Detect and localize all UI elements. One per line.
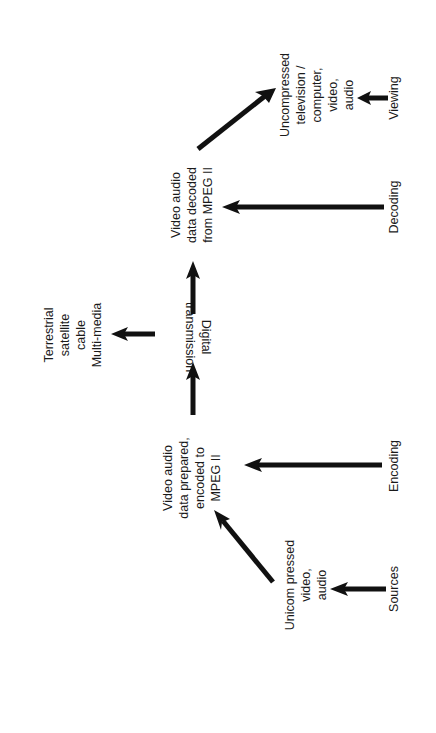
node-output-line-1: Uncompressed: [278, 53, 292, 137]
stage-label-decoding: Decoding: [387, 181, 401, 234]
arrow-decoded-to-output: [198, 88, 276, 149]
node-media-line-3: cable: [74, 320, 88, 350]
node-decoded-line-2: data decoded: [185, 167, 199, 243]
node-output-line-3: computer,: [310, 68, 324, 123]
node-media: Terrestrial satellite cable Multi-media: [42, 303, 104, 368]
node-encoded-line-3: encoded to: [193, 447, 207, 509]
arrow-encoding-to-encoded: [244, 458, 382, 472]
node-media-line-2: satellite: [58, 314, 72, 356]
arrow-sources-to-source: [330, 582, 386, 596]
node-source-line-2: video,: [299, 568, 313, 601]
node-uncompressed-source: Unicom pressed video, audio: [283, 540, 329, 630]
stage-label-viewing: Viewing: [387, 76, 401, 120]
node-source-line-1: Unicom pressed: [283, 540, 297, 630]
node-media-line-4: Multi-media: [90, 303, 104, 368]
node-source-line-3: audio: [315, 570, 329, 601]
node-decoded-line-3: from MPEG II: [201, 167, 215, 243]
node-encoded-line-4: MPEG II: [209, 454, 223, 501]
arrow-decoding-to-decoded: [222, 200, 384, 214]
mpeg-pipeline-diagram: Viewing Decoding Encoding Sources Uncomp…: [0, 0, 436, 733]
node-encoded-line-1: Video audio: [161, 445, 175, 511]
node-output-line-2: television /: [294, 65, 308, 125]
arrow-viewing-to-output: [357, 91, 388, 105]
node-output-line-4: video,: [326, 78, 340, 111]
node-encoded-line-2: data prepared,: [177, 437, 191, 518]
node-media-line-1: Terrestrial: [42, 308, 56, 363]
node-output-line-5: audio: [342, 80, 356, 111]
stage-label-sources: Sources: [387, 566, 401, 612]
node-decoded: Video audio data decoded from MPEG II: [169, 167, 215, 243]
node-encoded: Video audio data prepared, encoded to MP…: [161, 437, 223, 518]
node-transmission-line-1: Digital: [199, 320, 213, 355]
node-transmission: Digital transmission: [183, 302, 213, 372]
arrow-source-to-encoded: [214, 510, 273, 582]
arrow-transmission-to-media: [111, 327, 155, 341]
stage-label-encoding: Encoding: [387, 440, 401, 492]
node-decoded-line-1: Video audio: [169, 172, 183, 238]
node-output: Uncompressed television / computer, vide…: [278, 53, 356, 137]
